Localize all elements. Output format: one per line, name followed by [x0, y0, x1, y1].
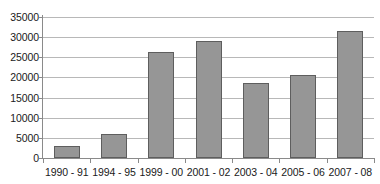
- bars-layer: [43, 17, 374, 158]
- bar-chart: 05000100001500020000250003000035000 1990…: [0, 0, 380, 184]
- x-axis: 1990 - 911994 - 951999 - 002001 - 022003…: [43, 166, 374, 182]
- x-tick-mark: [90, 159, 91, 163]
- y-tick-mark: [39, 77, 43, 78]
- y-tick-label: 25000: [0, 52, 39, 62]
- y-tick-mark: [39, 138, 43, 139]
- x-tick-mark: [374, 159, 375, 163]
- x-tick-mark: [232, 159, 233, 163]
- x-tick-label: 1994 - 95: [90, 166, 137, 178]
- x-tick-mark: [43, 159, 44, 163]
- y-tick-label: 30000: [0, 32, 39, 42]
- y-tick-label: 20000: [0, 72, 39, 82]
- x-tick-label: 2001 - 02: [185, 166, 232, 178]
- x-tick-label: 1990 - 91: [43, 166, 90, 178]
- x-tick-label: 1999 - 00: [138, 166, 185, 178]
- y-tick-label: 15000: [0, 93, 39, 103]
- y-tick-mark: [39, 118, 43, 119]
- bar: [243, 83, 269, 158]
- x-tick-mark: [327, 159, 328, 163]
- bar: [148, 52, 174, 158]
- bar: [337, 31, 363, 158]
- y-tick-mark: [39, 98, 43, 99]
- bar: [101, 134, 127, 158]
- y-tick-mark: [39, 57, 43, 58]
- x-tick-label: 2003 - 04: [232, 166, 279, 178]
- y-tick-mark: [39, 37, 43, 38]
- x-tick-label: 2007 - 08: [327, 166, 374, 178]
- bar: [290, 75, 316, 158]
- bar: [196, 41, 222, 158]
- x-tick-label: 2005 - 06: [279, 166, 326, 178]
- y-tick-label: 5000: [0, 133, 39, 143]
- x-tick-mark: [279, 159, 280, 163]
- y-tick-mark: [39, 17, 43, 18]
- bar: [54, 146, 80, 158]
- y-tick-label: 0: [0, 153, 39, 163]
- x-axis-line: [42, 158, 375, 159]
- x-tick-mark: [185, 159, 186, 163]
- y-axis: 05000100001500020000250003000035000: [0, 0, 39, 184]
- y-tick-label: 10000: [0, 113, 39, 123]
- y-tick-label: 35000: [0, 12, 39, 22]
- x-tick-mark: [138, 159, 139, 163]
